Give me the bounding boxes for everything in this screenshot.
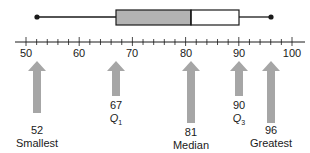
arrow-greatest <box>262 61 280 123</box>
q3-name: Q3 <box>233 112 245 129</box>
median-name: Median <box>173 139 209 152</box>
tick-label-60: 60 <box>73 47 85 59</box>
tick-label-100: 100 <box>283 47 301 59</box>
min-point <box>34 14 39 19</box>
tick-label-50: 50 <box>20 47 32 59</box>
tick-label-70: 70 <box>126 47 138 59</box>
max-point <box>268 14 273 19</box>
q1-value: 67 <box>110 99 122 112</box>
smallest-name: Smallest <box>16 137 58 150</box>
label-median: 81 Median <box>173 126 209 152</box>
box-q1-median <box>116 10 191 25</box>
greatest-value: 96 <box>250 124 292 137</box>
box-median-q3 <box>191 10 239 25</box>
arrow-q3 <box>230 61 248 96</box>
arrow-median <box>182 61 200 123</box>
tick-label-80: 80 <box>180 47 192 59</box>
arrow-smallest <box>28 61 46 113</box>
greatest-name: Greatest <box>250 137 292 150</box>
q1-name: Q1 <box>110 112 122 129</box>
median-value: 81 <box>173 126 209 139</box>
q3-value: 90 <box>233 99 245 112</box>
arrow-q1 <box>107 61 125 96</box>
label-greatest: 96 Greatest <box>250 124 292 150</box>
label-q3: 90 Q3 <box>233 99 245 129</box>
tick-label-90: 90 <box>233 47 245 59</box>
label-smallest: 52 Smallest <box>16 124 58 150</box>
label-q1: 67 Q1 <box>110 99 122 129</box>
smallest-value: 52 <box>16 124 58 137</box>
